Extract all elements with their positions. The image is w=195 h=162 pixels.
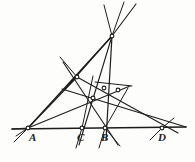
line-apex-up-right-1 (112, 4, 136, 36)
line-apex-up-left (104, 5, 112, 36)
line-apex-to-left-vertex (65, 36, 112, 89)
point-label-d: D (158, 132, 166, 143)
line-a-tail-lower (14, 128, 28, 142)
point-c (80, 126, 84, 130)
segments-group (12, 2, 186, 148)
geometry-figure: A C B D (0, 0, 195, 162)
point-b (103, 126, 107, 130)
point-d (160, 126, 164, 130)
apex-vertex (110, 34, 114, 38)
line-left-vertex-up-left (60, 57, 77, 77)
left-vertex (75, 75, 79, 79)
upper-inner-node (102, 86, 106, 90)
point-label-b: B (101, 132, 108, 143)
chord-right-sweep (95, 82, 132, 86)
line-apex-up-right-2 (112, 2, 124, 36)
line-a-to-right-node (28, 86, 130, 128)
lower-inner-node (91, 96, 95, 100)
point-label-a: A (29, 132, 36, 143)
point-label-c: C (77, 132, 84, 143)
point-a (26, 126, 30, 130)
right-node (116, 88, 120, 92)
